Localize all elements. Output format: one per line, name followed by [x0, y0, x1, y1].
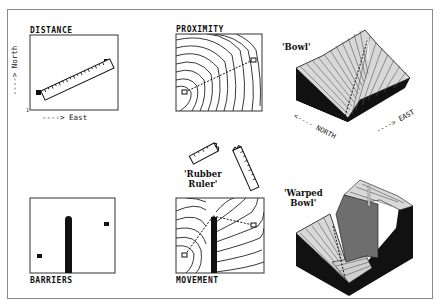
warped-bowl-surface [0, 0, 442, 308]
target-spike [368, 186, 370, 206]
